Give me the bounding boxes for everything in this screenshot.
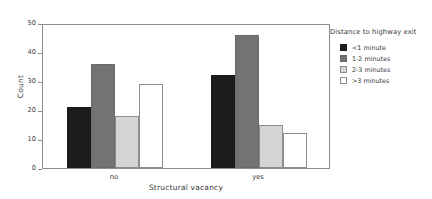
y-axis-tick-label: 10: [28, 135, 36, 143]
legend-entry-label: 1-2 minutes: [352, 55, 390, 63]
legend-entry: 1-2 minutes: [340, 53, 432, 64]
legend-color-swatch: [340, 44, 347, 51]
legend-entry: <1 minute: [340, 42, 432, 53]
y-axis-tick-label: 20: [28, 106, 36, 114]
bar: [67, 107, 91, 168]
x-axis-tick-label: yes: [252, 173, 264, 181]
x-axis-title: Structural vacancy: [42, 183, 330, 192]
legend-color-swatch: [340, 77, 347, 84]
bar-chart-figure: Count 01020304050 noyes Structural vacan…: [0, 0, 432, 199]
bar: [235, 35, 259, 168]
legend-title: Distance to highway exit: [330, 28, 432, 36]
x-axis-tick-label: no: [110, 173, 118, 181]
y-axis-tick-label: 30: [28, 77, 36, 85]
legend-entry-label: 2-3 minutes: [352, 66, 390, 74]
legend-entry: 2-3 minutes: [340, 64, 432, 75]
bar: [139, 84, 163, 168]
legend-entry-label: <1 minute: [352, 44, 386, 52]
plot-area: [42, 24, 330, 169]
bar: [283, 133, 307, 168]
bar: [211, 75, 235, 168]
legend: Distance to highway exit <1 minute1-2 mi…: [330, 28, 432, 86]
legend-entries: <1 minute1-2 minutes2-3 minutes>3 minute…: [330, 42, 432, 86]
legend-entry-label: >3 minutes: [352, 77, 389, 85]
legend-color-swatch: [340, 55, 347, 62]
y-axis-tick-label: 50: [28, 19, 36, 27]
bar: [259, 125, 283, 169]
y-axis-tick-mark: [38, 169, 42, 170]
bar-group-container: [43, 25, 329, 168]
legend-entry: >3 minutes: [340, 75, 432, 86]
legend-color-swatch: [340, 66, 347, 73]
bar: [91, 64, 115, 168]
y-axis: 01020304050: [0, 0, 42, 199]
bar: [115, 116, 139, 168]
y-axis-tick-label: 0: [32, 164, 36, 172]
y-axis-tick-label: 40: [28, 48, 36, 56]
